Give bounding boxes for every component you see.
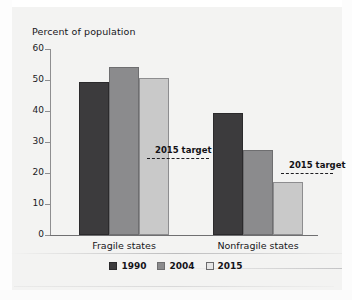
bar-2004-fragile-states [109, 67, 139, 235]
plot-area [51, 49, 318, 235]
y-tick-label-40: 40 [8, 105, 44, 115]
legend-label-2004: 2004 [169, 261, 194, 271]
x-axis-line [50, 235, 318, 236]
y-tick-40 [45, 111, 50, 112]
y-tick-label-60: 60 [8, 43, 44, 53]
y-tick-50 [45, 80, 50, 81]
chart-legend: 199020042015 [0, 261, 352, 271]
y-tick-30 [45, 142, 50, 143]
y-axis-title: Percent of population [32, 26, 136, 37]
legend-item-2004[interactable]: 2004 [157, 261, 194, 271]
legend-swatch-icon-1990 [109, 262, 117, 270]
target-label-1: 2015 target [289, 160, 346, 170]
target-line-1 [281, 173, 333, 174]
bar-chart: Percent of population 6050403020100 Frag… [0, 0, 352, 300]
legend-label-2015: 2015 [218, 261, 243, 271]
target-line-0 [147, 158, 209, 159]
bar-2015-nonfragile-states [273, 182, 303, 235]
chart-page: Percent of population 6050403020100 Frag… [0, 0, 352, 300]
legend-item-1990[interactable]: 1990 [109, 261, 146, 271]
y-tick-label-10: 10 [8, 198, 44, 208]
y-tick-label-20: 20 [8, 167, 44, 177]
y-tick-60 [45, 49, 50, 50]
y-tick-0 [45, 235, 50, 236]
bar-1990-nonfragile-states [213, 113, 243, 235]
y-tick-20 [45, 173, 50, 174]
legend-swatch-icon-2004 [157, 262, 165, 270]
x-label-fragile-states: Fragile states [64, 240, 184, 251]
y-tick-10 [45, 204, 50, 205]
target-label-0: 2015 target [155, 145, 212, 155]
x-label-nonfragile-states: Nonfragile states [198, 240, 318, 251]
legend-label-1990: 1990 [121, 261, 146, 271]
y-tick-label-30: 30 [8, 136, 44, 146]
bar-2004-nonfragile-states [243, 150, 273, 235]
y-tick-label-0: 0 [8, 229, 44, 239]
y-tick-label-50: 50 [8, 74, 44, 84]
legend-item-2015[interactable]: 2015 [206, 261, 243, 271]
legend-swatch-icon-2015 [206, 262, 214, 270]
bar-1990-fragile-states [79, 82, 109, 235]
